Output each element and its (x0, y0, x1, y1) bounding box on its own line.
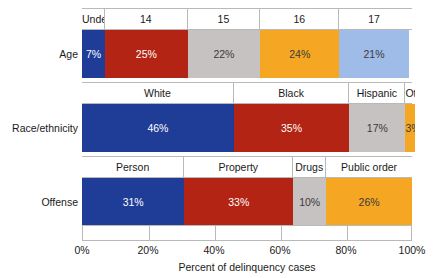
bar-segment: 25% (105, 30, 188, 78)
segment-value-label: 24% (260, 48, 339, 60)
segment-label: 15 (188, 9, 261, 29)
segment-label-band: Under 1314151617 (82, 8, 412, 30)
segment-label: Person (82, 157, 184, 177)
segment-value-label: 46% (82, 122, 234, 134)
x-axis-tick (215, 226, 216, 241)
bar-segment: 7% (82, 30, 105, 78)
segment-label: Property (184, 157, 293, 177)
x-axis-tick (347, 226, 348, 241)
bar-segment: 26% (326, 178, 412, 226)
x-axis-tick-label: 40% (184, 244, 244, 256)
segment-label: Hispanic (349, 83, 405, 103)
segment-value-label: 10% (293, 196, 326, 208)
segment-label: Under 13 (82, 9, 105, 29)
segment-value-label: 33% (184, 196, 293, 208)
segment-value-label: 26% (326, 196, 412, 208)
stacked-bar: 46%35%17%3% (82, 104, 412, 152)
segment-label: White (82, 83, 234, 103)
segment-value-label: 7% (82, 48, 105, 60)
x-axis-tick-label: 0% (52, 244, 112, 256)
x-axis-tick (149, 226, 150, 241)
segment-label: Black (234, 83, 350, 103)
x-axis-title: Percent of delinquency cases (82, 261, 412, 273)
segment-value-label: 3% (405, 122, 415, 134)
segment-value-label: 17% (349, 122, 405, 134)
stacked-bar: 31%33%10%26% (82, 178, 412, 226)
segment-label-band: WhiteBlackHispanicOthe (82, 82, 412, 104)
stacked-bar: 7%25%22%24%21% (82, 30, 412, 78)
segment-label: 17 (339, 9, 408, 29)
segment-label: Drugs (293, 157, 326, 177)
bar-segment: 17% (349, 104, 405, 152)
category-label: Age (0, 48, 78, 60)
bar-segment: 22% (188, 30, 261, 78)
bar-segment: 24% (260, 30, 339, 78)
stacked-bar-chart: AgeUnder 13141516177%25%22%24%21%Race/et… (0, 0, 438, 278)
segment-label: Othe (405, 83, 415, 103)
bar-segment: 10% (293, 178, 326, 226)
segment-label-band: PersonPropertyDrugsPublic order (82, 156, 412, 178)
segment-label: Public order (326, 157, 412, 177)
bar-segment: 21% (339, 30, 408, 78)
x-axis (82, 225, 412, 241)
bar-segment: 31% (82, 178, 184, 226)
bar-segment: 35% (234, 104, 350, 152)
x-axis-tick-label: 100% (382, 244, 438, 256)
bar-segment: 33% (184, 178, 293, 226)
x-axis-tick-label: 20% (118, 244, 178, 256)
x-axis-tick (281, 226, 282, 241)
x-axis-tick-label: 80% (316, 244, 376, 256)
x-axis-tick-label: 60% (250, 244, 310, 256)
segment-value-label: 31% (82, 196, 184, 208)
segment-value-label: 21% (339, 48, 408, 60)
category-label: Race/ethnicity (0, 122, 78, 134)
segment-label: 14 (105, 9, 188, 29)
segment-value-label: 25% (105, 48, 188, 60)
bar-segment: 46% (82, 104, 234, 152)
category-label: Offense (0, 196, 78, 208)
segment-label: 16 (260, 9, 339, 29)
bar-segment: 3% (405, 104, 415, 152)
segment-value-label: 35% (234, 122, 350, 134)
segment-value-label: 22% (188, 48, 261, 60)
